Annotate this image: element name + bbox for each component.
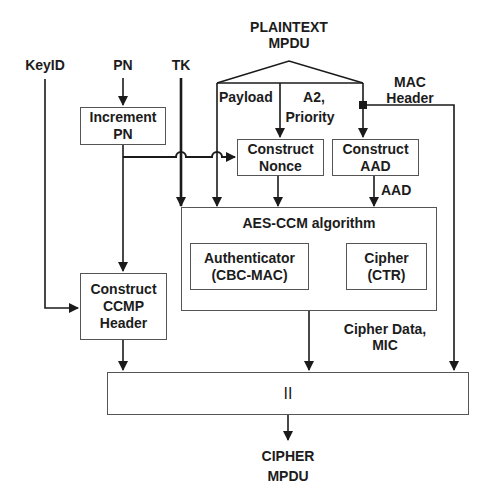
cipher-data-mic-label: Cipher Data, MIC	[330, 321, 440, 353]
pn-label: PN	[105, 57, 141, 73]
mac-header-line1: MAC	[380, 74, 440, 90]
cipher-data-line: Cipher Data,	[330, 321, 440, 337]
cipher-line2: (CTR)	[367, 267, 405, 284]
a2-line: A2,	[282, 89, 338, 105]
cipher-block: Cipher (CTR)	[346, 243, 427, 290]
priority-line: Priority	[282, 109, 338, 125]
tk-label: TK	[163, 57, 199, 73]
construct-ccmp-header-block: Construct CCMP Header	[80, 273, 167, 340]
authenticator-line1: Authenticator	[204, 250, 295, 267]
authenticator-line2: (CBC-MAC)	[211, 267, 287, 284]
plaintext-mpdu-label: PLAINTEXT MPDU	[239, 19, 339, 51]
construct-aad-line2: AAD	[360, 158, 390, 175]
keyid-label: KeyID	[20, 57, 70, 73]
junction-dot	[359, 101, 367, 109]
authenticator-block: Authenticator (CBC-MAC)	[190, 243, 309, 290]
pn-to-nonce-arrow	[123, 152, 235, 157]
ccmp-line1: Construct	[90, 281, 156, 298]
plaintext-line1: PLAINTEXT	[239, 19, 339, 35]
payload-label: Payload	[219, 89, 277, 105]
cipher-line1: Cipher	[364, 250, 408, 267]
aes-ccm-title: AES-CCM algorithm	[243, 215, 376, 232]
mac-header-label: MAC Header	[380, 74, 440, 106]
cipher-mpdu-line2: MPDU	[248, 468, 328, 484]
cipher-mpdu-label: CIPHER MPDU	[248, 448, 328, 484]
cipher-mpdu-line1: CIPHER	[248, 448, 328, 464]
plaintext-split	[217, 61, 363, 83]
ccmp-line3: Header	[100, 315, 147, 332]
increment-pn-block: Increment PN	[80, 107, 166, 145]
ccmp-line2: CCMP	[103, 298, 144, 315]
concatenate-block: II	[107, 372, 469, 415]
keyid-arrow	[45, 79, 78, 308]
construct-nonce-block: Construct Nonce	[237, 139, 324, 176]
a2-priority-label: A2, Priority	[282, 89, 338, 125]
mac-header-line2: Header	[380, 90, 440, 106]
construct-nonce-line2: Nonce	[259, 158, 302, 175]
aad-label: AAD	[381, 182, 421, 198]
construct-nonce-line1: Construct	[247, 141, 313, 158]
increment-pn-line2: PN	[113, 126, 132, 143]
concatenate-symbol: II	[284, 385, 293, 402]
increment-pn-line1: Increment	[90, 109, 157, 126]
mic-line: MIC	[330, 337, 440, 353]
plaintext-line2: MPDU	[239, 35, 339, 51]
construct-aad-block: Construct AAD	[332, 139, 419, 176]
construct-aad-line1: Construct	[342, 141, 408, 158]
